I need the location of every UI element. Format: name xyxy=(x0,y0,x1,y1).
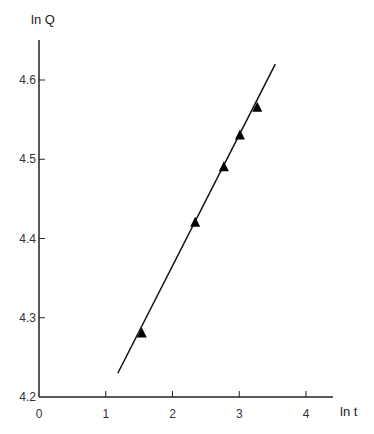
data-point-triangle xyxy=(190,217,200,227)
fit-line xyxy=(118,64,276,373)
x-tick-label: 3 xyxy=(236,407,243,421)
y-axis-title: ln Q xyxy=(31,12,55,27)
chart: ln Q ln t 4.24.34.44.54.6 01234 xyxy=(0,0,374,434)
y-tick-label: 4.3 xyxy=(19,311,36,325)
x-tick-label: 0 xyxy=(36,407,43,421)
data-point-triangle xyxy=(235,129,245,139)
y-ticks: 4.24.34.44.54.6 xyxy=(19,73,45,404)
plot-area xyxy=(118,64,276,373)
y-tick-label: 4.4 xyxy=(19,232,36,246)
y-tick-label: 4.6 xyxy=(19,73,36,87)
x-tick-label: 2 xyxy=(169,407,176,421)
x-axis-title: ln t xyxy=(340,404,358,419)
x-tick-label: 1 xyxy=(102,407,109,421)
data-point-triangle xyxy=(219,161,229,171)
y-tick-label: 4.2 xyxy=(19,390,36,404)
y-tick-label: 4.5 xyxy=(19,152,36,166)
x-tick-label: 4 xyxy=(303,407,310,421)
x-ticks: 01234 xyxy=(36,391,310,421)
